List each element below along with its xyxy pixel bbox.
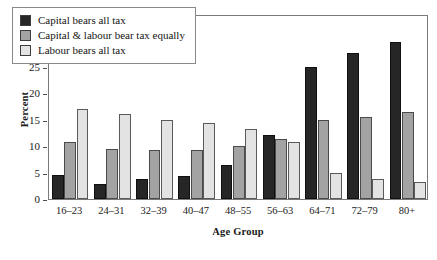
bar — [52, 175, 64, 199]
y-tick-mark — [43, 121, 47, 122]
y-tick-label: 15 — [14, 115, 40, 126]
legend-swatch-icon — [20, 30, 31, 41]
y-tick-mark — [43, 94, 47, 95]
legend-swatch-icon — [20, 15, 31, 26]
x-axis-label: Age Group — [48, 226, 428, 237]
legend-item: Capital & labour bear tax equally — [20, 28, 185, 43]
legend-label: Capital & labour bear tax equally — [38, 29, 185, 42]
bar-group — [260, 16, 302, 199]
bar — [414, 182, 426, 199]
bar — [119, 114, 131, 199]
y-tick-label: 20 — [14, 88, 40, 99]
bar — [360, 117, 372, 199]
y-tick-label: 10 — [14, 141, 40, 152]
chart-legend: Capital bears all taxCapital & labour be… — [12, 7, 196, 64]
bar — [64, 142, 76, 199]
bar — [245, 129, 257, 199]
bar — [221, 165, 233, 199]
bar — [318, 120, 330, 199]
bar-group — [302, 16, 344, 199]
bar — [136, 179, 148, 199]
bar — [191, 150, 203, 199]
y-tick-mark — [43, 68, 47, 69]
bar — [275, 139, 287, 199]
bar — [347, 53, 359, 199]
bar — [372, 179, 384, 199]
y-tick-label: 5 — [14, 168, 40, 179]
bar-chart-figure: Percent 05101520253035 16–2324–3132–3940… — [0, 0, 437, 260]
y-axis-label: Percent — [19, 70, 30, 150]
bar — [390, 42, 402, 200]
legend-item: Capital bears all tax — [20, 13, 185, 28]
y-tick-mark — [43, 200, 47, 201]
bar — [402, 112, 414, 199]
bar — [149, 150, 161, 199]
bar — [288, 142, 300, 199]
y-tick-mark — [43, 147, 47, 148]
legend-item: Labour bears all tax — [20, 43, 185, 58]
bar — [263, 135, 275, 199]
bar — [305, 67, 317, 199]
legend-label: Capital bears all tax — [38, 14, 126, 27]
bar — [203, 123, 215, 199]
x-tick-label: 80+ — [379, 205, 435, 217]
bar — [233, 146, 245, 199]
bar — [106, 149, 118, 199]
legend-swatch-icon — [20, 45, 31, 56]
bar-group — [218, 16, 260, 199]
bar-group — [387, 16, 429, 199]
y-tick-mark — [43, 174, 47, 175]
bar — [77, 109, 89, 199]
bar — [178, 176, 190, 199]
bar — [94, 184, 106, 199]
legend-label: Labour bears all tax — [38, 44, 126, 57]
bar — [161, 120, 173, 199]
bar — [330, 173, 342, 199]
bar-group — [345, 16, 387, 199]
y-tick-label: 0 — [14, 194, 40, 205]
